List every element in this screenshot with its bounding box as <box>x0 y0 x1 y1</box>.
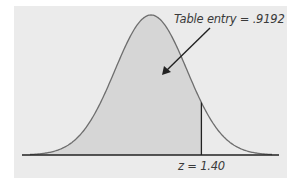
z-value-label: z = 1.40 <box>178 159 225 173</box>
table-entry-label: Table entry = .9192 <box>174 12 285 26</box>
shaded-area <box>30 15 201 155</box>
normal-curve-chart <box>0 0 299 186</box>
